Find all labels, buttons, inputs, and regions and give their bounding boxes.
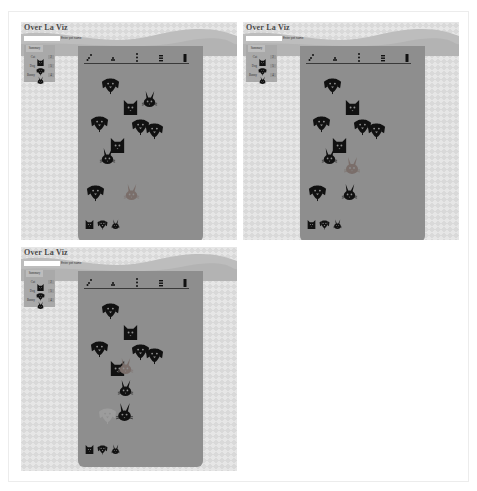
cat-icon[interactable] xyxy=(121,98,140,117)
visualization-area[interactable] xyxy=(78,46,203,240)
scatter-layout-icon[interactable] xyxy=(86,275,96,287)
legend-label: Bunny xyxy=(25,298,35,302)
bunny-icon[interactable] xyxy=(122,183,141,202)
legend-count: 5 xyxy=(270,64,276,68)
footer-bunny-icon[interactable] xyxy=(110,216,121,229)
app-title: Over La Viz xyxy=(24,23,68,32)
legend-count: 4 xyxy=(48,73,54,77)
bar-layout-icon[interactable] xyxy=(180,275,190,287)
footer-cat-icon[interactable] xyxy=(306,216,317,229)
legend-row-dog[interactable]: Dog 5 xyxy=(246,62,277,71)
dog-icon[interactable] xyxy=(145,346,164,365)
legend-row-cat[interactable]: Cat 2 xyxy=(24,53,55,62)
summary-legend: Summary Cat 2 Dog 5 Bunny 4 xyxy=(246,45,277,82)
footer-dog-icon[interactable] xyxy=(319,216,330,229)
cluster-layout-icon[interactable] xyxy=(330,50,340,62)
bunny-icon[interactable] xyxy=(98,147,117,166)
cluster-layout-icon[interactable] xyxy=(108,275,118,287)
dog-icon[interactable] xyxy=(101,76,120,95)
legend-row-cat[interactable]: Cat 2 xyxy=(246,53,277,62)
legend-row-dog[interactable]: Dog 5 xyxy=(24,62,55,71)
bar-layout-icon[interactable] xyxy=(180,50,190,62)
dog-icon xyxy=(36,287,45,296)
legend-count: 4 xyxy=(270,73,276,77)
bunny-icon xyxy=(36,71,45,80)
bunny-icon[interactable] xyxy=(116,357,135,376)
stack-layout-icon[interactable] xyxy=(156,50,166,62)
footer-cat-icon[interactable] xyxy=(84,216,95,229)
enter-pet-name-button[interactable]: Enter pet name xyxy=(283,35,304,42)
legend-label: Cat xyxy=(247,55,257,59)
legend-count: 5 xyxy=(48,64,54,68)
dog-icon[interactable] xyxy=(90,114,109,133)
dog-icon[interactable] xyxy=(145,121,164,140)
scatter-layout-icon[interactable] xyxy=(86,50,96,62)
stack-layout-icon[interactable] xyxy=(156,275,166,287)
bunny-icon[interactable] xyxy=(340,183,359,202)
legend-count: 2 xyxy=(48,280,54,284)
footer-bunny-icon[interactable] xyxy=(110,441,121,454)
cat-icon xyxy=(36,278,45,287)
cat-icon[interactable] xyxy=(121,323,140,342)
legend-label: Cat xyxy=(25,55,35,59)
footer-dog-icon[interactable] xyxy=(97,216,108,229)
stack-layout-icon[interactable] xyxy=(378,50,388,62)
cat-icon[interactable] xyxy=(343,98,362,117)
summary-legend: Summary Cat 2 Dog 5 Bunny 4 xyxy=(24,45,55,82)
panel-1: Over La Viz Enter pet name Summary Cat 2… xyxy=(21,22,237,240)
bunny-icon[interactable] xyxy=(140,90,159,109)
dog-icon[interactable] xyxy=(367,121,386,140)
dog-icon xyxy=(258,62,267,71)
legend-row-bunny[interactable]: Bunny 4 xyxy=(24,71,55,80)
app-title: Over La Viz xyxy=(24,248,68,257)
bunny-icon[interactable] xyxy=(114,402,135,423)
footer-bunny-icon[interactable] xyxy=(332,216,343,229)
pet-name-input[interactable] xyxy=(24,36,60,41)
toolbar-divider xyxy=(84,63,189,64)
legend-count: 2 xyxy=(48,55,54,59)
legend-label: Dog xyxy=(25,64,35,68)
legend-label: Dog xyxy=(25,289,35,293)
dog-icon[interactable] xyxy=(308,183,327,202)
legend-count: 5 xyxy=(48,289,54,293)
legend-row-bunny[interactable]: Bunny 4 xyxy=(246,71,277,80)
toolbar-divider xyxy=(84,288,189,289)
enter-pet-name-button[interactable]: Enter pet name xyxy=(61,35,82,42)
summary-tab[interactable]: Summary xyxy=(26,45,43,52)
dog-icon[interactable] xyxy=(323,76,342,95)
legend-label: Bunny xyxy=(247,73,257,77)
pet-name-input[interactable] xyxy=(246,36,282,41)
legend-count: 2 xyxy=(270,55,276,59)
column-layout-icon[interactable] xyxy=(354,50,364,62)
summary-tab[interactable]: Summary xyxy=(26,270,43,277)
pet-name-input[interactable] xyxy=(24,261,60,266)
cluster-layout-icon[interactable] xyxy=(108,50,118,62)
dog-icon[interactable] xyxy=(312,114,331,133)
visualization-area[interactable] xyxy=(300,46,425,240)
dog-icon[interactable] xyxy=(90,339,109,358)
layout-toolbar xyxy=(84,50,198,64)
bunny-icon[interactable] xyxy=(342,156,362,176)
legend-row-bunny[interactable]: Bunny 4 xyxy=(24,296,55,305)
bar-layout-icon[interactable] xyxy=(402,50,412,62)
scatter-layout-icon[interactable] xyxy=(308,50,318,62)
panel-2: Over La Viz Enter pet name Summary Cat 2… xyxy=(243,22,459,240)
footer-dog-icon[interactable] xyxy=(97,441,108,454)
legend-label: Cat xyxy=(25,280,35,284)
panel-3: Over La Viz Enter pet name Summary Cat 2… xyxy=(21,247,237,471)
bunny-icon[interactable] xyxy=(320,147,339,166)
bunny-icon[interactable] xyxy=(116,379,135,398)
summary-tab[interactable]: Summary xyxy=(248,45,265,52)
dog-icon[interactable] xyxy=(86,183,105,202)
legend-row-cat[interactable]: Cat 2 xyxy=(24,278,55,287)
column-layout-icon[interactable] xyxy=(132,50,142,62)
bunny-icon xyxy=(36,296,45,305)
visualization-area[interactable] xyxy=(78,271,203,467)
legend-label: Dog xyxy=(247,64,257,68)
footer-cat-icon[interactable] xyxy=(84,441,95,454)
dog-icon[interactable] xyxy=(101,301,120,320)
legend-row-dog[interactable]: Dog 5 xyxy=(24,287,55,296)
enter-pet-name-button[interactable]: Enter pet name xyxy=(61,260,82,267)
legend-count: 4 xyxy=(48,298,54,302)
column-layout-icon[interactable] xyxy=(132,275,142,287)
